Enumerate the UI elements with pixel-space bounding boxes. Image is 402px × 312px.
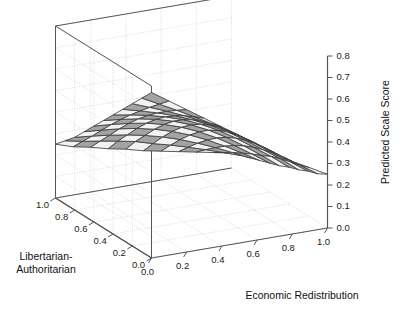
x-axis-title: Economic Redistribution: [245, 289, 358, 301]
y-tick-label: 0.6: [74, 223, 87, 234]
surface-plot-figure: 0.00.10.20.30.40.50.60.70.80.00.20.40.60…: [0, 0, 402, 312]
y-axis-title-line1: Libertarian-: [19, 250, 73, 262]
y-axis-title-line2: Authoritarian: [16, 263, 76, 275]
y-tick-label: 0.4: [93, 235, 106, 246]
x-tick-label: 0.6: [246, 248, 259, 259]
z-tick-label: 0.3: [337, 157, 350, 168]
z-tick-label: 0.7: [337, 71, 350, 82]
y-tick-mark: [89, 222, 94, 225]
x-tick-label: 0.8: [282, 242, 295, 253]
y-tick-label: 0.0: [132, 259, 145, 270]
z-tick-label: 0.6: [337, 93, 350, 104]
surface-plot-canvas: 0.00.10.20.30.40.50.60.70.80.00.20.40.60…: [0, 0, 402, 312]
y-tick-label: 0.2: [113, 247, 126, 258]
y-tick-mark: [51, 198, 56, 201]
x-tick-label: 0.4: [211, 254, 224, 265]
z-axis-title: Predicted Scale Score: [379, 80, 391, 184]
z-tick-label: 0.4: [337, 136, 350, 147]
z-tick-label: 0.8: [337, 50, 350, 61]
x-tick-label: 0.2: [176, 260, 189, 271]
z-tick-label: 0.1: [337, 200, 350, 211]
y-tick-mark: [108, 234, 113, 237]
y-tick-mark: [70, 210, 75, 213]
x-tick-label: 1.0: [317, 236, 330, 247]
z-tick-label: 0.0: [337, 222, 350, 233]
y-tick-mark: [127, 246, 132, 249]
z-tick-label: 0.2: [337, 179, 350, 190]
z-tick-label: 0.5: [337, 114, 350, 125]
y-tick-label: 1.0: [36, 199, 49, 210]
y-tick-label: 0.8: [55, 211, 68, 222]
